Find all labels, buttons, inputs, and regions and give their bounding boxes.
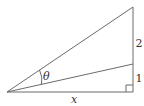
right-angle-marker [126,85,133,92]
triangle-diagram: θ x 2 1 [0,0,144,106]
hypotenuse-lower [7,64,133,92]
angle-label-theta: θ [43,70,50,83]
base-label-x: x [71,93,78,106]
lower-segment-label: 1 [136,72,143,85]
upper-segment-label: 2 [136,37,143,50]
hypotenuse-upper [7,7,133,92]
angle-arc [40,70,42,85]
